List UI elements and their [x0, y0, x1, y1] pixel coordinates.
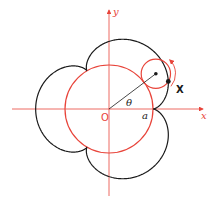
- rolling-center-dot: [154, 72, 158, 76]
- x-axis-label: x: [201, 110, 207, 121]
- angle-label: θ: [126, 97, 132, 108]
- y-axis-label: y: [112, 6, 119, 17]
- tracing-point: [166, 79, 171, 84]
- origin-label: O: [101, 112, 109, 123]
- point-label: X: [176, 84, 184, 95]
- epicycloid-diagram: y x O a θ X: [0, 0, 217, 213]
- radius-label: a: [142, 110, 148, 121]
